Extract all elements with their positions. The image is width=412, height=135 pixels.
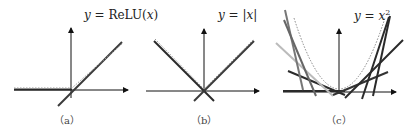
caption-a: （a） xyxy=(54,112,80,127)
right-piece xyxy=(194,41,254,101)
relu-curve-dotted xyxy=(14,43,123,88)
eq-c-lhs: y xyxy=(354,9,361,23)
panel-c xyxy=(276,10,403,99)
eq-b-eq: = | xyxy=(225,8,247,22)
equation-a: y = ReLU(x) xyxy=(84,8,158,22)
panel-a xyxy=(14,28,128,106)
eq-a-close: ) xyxy=(154,8,159,22)
left-piece xyxy=(154,41,214,101)
caption-c: （c） xyxy=(326,112,352,127)
eq-c-sup: 2 xyxy=(385,8,390,17)
eq-a-rhs: ReLU( xyxy=(108,8,146,22)
equation-b: y = |x| xyxy=(218,8,257,22)
caption-b: （b） xyxy=(191,112,217,127)
identity-piece xyxy=(58,42,122,106)
eq-a-eq: = xyxy=(91,8,109,22)
eq-b-close: | xyxy=(253,8,257,22)
equation-c: y = x2 xyxy=(354,8,390,23)
eq-a-arg: x xyxy=(147,8,154,22)
eq-c-eq: = xyxy=(361,9,379,23)
eq-a-lhs: y xyxy=(84,8,91,22)
convex-functions-figure: y = ReLU(x) y = |x| y = x2 （a） （b） （c） xyxy=(0,0,412,135)
eq-b-lhs: y xyxy=(218,8,225,22)
tangent-line xyxy=(284,20,316,96)
panel-b xyxy=(146,29,259,101)
tangent-line xyxy=(285,10,303,90)
